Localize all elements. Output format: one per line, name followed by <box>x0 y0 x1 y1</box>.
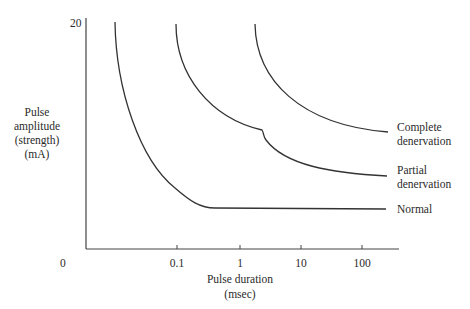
y-axis-title-line: (mA) <box>4 148 70 161</box>
partial-denervation-curve <box>176 24 387 176</box>
x-origin-label: 0 <box>60 257 66 270</box>
legend-normal: Normal <box>397 203 432 216</box>
y-axis-title-line: amplitude <box>4 120 70 133</box>
y-tick-label-20: 20 <box>70 17 82 30</box>
x-tick-label: 10 <box>286 257 316 270</box>
x-tick-label: 100 <box>347 257 377 270</box>
normal-curve <box>115 22 386 209</box>
legend-complete-line2: denervation <box>397 135 451 148</box>
y-axis-title-line: (strength) <box>4 134 70 147</box>
legend-complete-line1: Complete <box>397 121 442 134</box>
complete-denervation-curve <box>255 24 388 132</box>
y-axis-title-line: Pulse <box>4 106 70 119</box>
legend-partial-line1: Partial <box>397 164 427 177</box>
x-axis-title-line1: Pulse duration <box>190 273 290 286</box>
x-tick-label: 0.1 <box>162 257 192 270</box>
x-tick-label: 1 <box>225 257 255 270</box>
x-axis-title-line2: (msec) <box>190 288 290 301</box>
legend-partial-line2: denervation <box>397 178 451 191</box>
